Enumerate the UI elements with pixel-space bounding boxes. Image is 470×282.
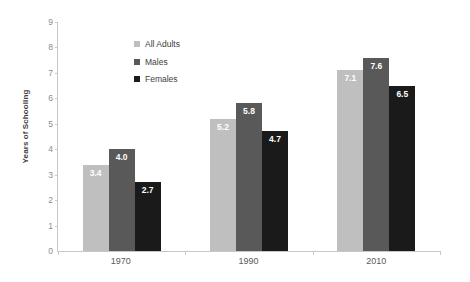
bar[interactable]: 7.6 — [363, 58, 389, 251]
legend-item-all-adults[interactable]: All Adults — [134, 40, 180, 49]
legend-swatch-icon — [134, 76, 140, 82]
bar[interactable]: 7.1 — [337, 70, 363, 251]
bar-value-label: 4.0 — [116, 153, 128, 251]
legend-item-males[interactable]: Males — [134, 58, 180, 67]
legend-item-females[interactable]: Females — [134, 75, 180, 84]
y-tick-label: 9 — [12, 17, 58, 27]
y-tick-label: 4 — [12, 144, 58, 154]
y-tick-label: 0 — [12, 246, 58, 256]
x-axis-label: 1990 — [185, 256, 313, 278]
bar[interactable]: 3.4 — [83, 165, 109, 252]
bar-value-label: 2.7 — [142, 186, 154, 251]
bar-value-label: 3.4 — [90, 169, 102, 252]
bar[interactable]: 2.7 — [135, 182, 161, 251]
y-tick-label: 3 — [12, 170, 58, 180]
bar-group-1990: 5.25.84.7 — [185, 22, 312, 251]
plot-area: 9876543210 3.44.02.75.25.84.77.17.66.5 A… — [57, 22, 440, 252]
bar-value-label: 7.6 — [370, 62, 382, 251]
chart-legend: All AdultsMalesFemales — [134, 40, 180, 93]
legend-swatch-icon — [134, 41, 140, 47]
bar-group-2010: 7.17.66.5 — [313, 22, 440, 251]
x-tick-mark — [185, 251, 186, 255]
y-tick-label: 8 — [12, 42, 58, 52]
bar-value-label: 6.5 — [396, 90, 408, 251]
y-tick-label: 1 — [12, 221, 58, 231]
x-axis-labels: 197019902010 — [57, 256, 440, 278]
x-tick-mark — [58, 251, 59, 255]
legend-swatch-icon — [134, 59, 140, 65]
bar[interactable]: 4.0 — [109, 149, 135, 251]
bar[interactable]: 5.8 — [236, 103, 262, 251]
legend-label: Males — [145, 58, 168, 67]
y-tick-label: 5 — [12, 119, 58, 129]
bar-value-label: 7.1 — [344, 74, 356, 251]
bar-groups: 3.44.02.75.25.84.77.17.66.5 — [58, 22, 440, 251]
bar-value-label: 4.7 — [269, 135, 281, 251]
bar-chart: Years of Schooling 9876543210 3.44.02.75… — [0, 0, 470, 282]
bar[interactable]: 6.5 — [389, 86, 415, 251]
y-tick-label: 7 — [12, 68, 58, 78]
x-axis-label: 1970 — [57, 256, 185, 278]
bar-value-label: 5.2 — [217, 123, 229, 251]
bar[interactable]: 4.7 — [262, 131, 288, 251]
y-tick-label: 2 — [12, 195, 58, 205]
legend-label: Females — [145, 75, 178, 84]
bar-value-label: 5.8 — [243, 107, 255, 251]
x-tick-mark — [313, 251, 314, 255]
bar[interactable]: 5.2 — [210, 119, 236, 251]
y-tick-label: 6 — [12, 93, 58, 103]
x-axis-label: 2010 — [312, 256, 440, 278]
x-tick-mark — [440, 251, 441, 255]
legend-label: All Adults — [145, 40, 180, 49]
